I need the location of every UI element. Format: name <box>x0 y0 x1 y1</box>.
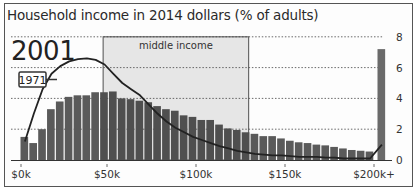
line-label-1971: 1971 <box>19 74 47 87</box>
y-tick-label: 6 <box>396 62 403 74</box>
bar <box>136 101 144 160</box>
y-tick-label: 0 <box>396 154 403 166</box>
bar <box>162 109 170 160</box>
y-tick-label: 2 <box>396 123 403 135</box>
bar <box>109 91 117 160</box>
bar <box>268 136 276 160</box>
middle-income-label: middle income <box>139 40 213 51</box>
bar <box>38 129 46 160</box>
bar-chart: middle income024681971$0k$50k$100k$150k$… <box>0 0 419 193</box>
bar <box>277 138 285 160</box>
x-tick-label: $0k <box>11 168 31 180</box>
x-tick-label: $150k <box>269 168 303 180</box>
bar <box>82 95 90 160</box>
bar <box>91 92 99 160</box>
bar <box>251 134 259 160</box>
bar <box>47 109 55 160</box>
bar <box>242 132 250 160</box>
bar <box>29 143 37 160</box>
bar <box>259 136 267 160</box>
x-tick-label: $200k+ <box>353 168 395 180</box>
bar <box>171 111 179 160</box>
bar <box>65 97 73 160</box>
bar <box>74 95 82 160</box>
bar <box>215 125 223 160</box>
y-tick-label: 8 <box>396 31 403 43</box>
bar <box>233 130 241 160</box>
bar <box>144 102 152 160</box>
bar <box>127 99 135 160</box>
bar <box>56 101 64 160</box>
y-tick-label: 4 <box>396 92 403 104</box>
x-tick-label: $50k <box>94 168 121 180</box>
bar <box>100 92 108 160</box>
bar <box>206 120 214 160</box>
bar <box>378 49 386 160</box>
x-tick-label: $100k <box>180 168 214 180</box>
year-label: 2001 <box>11 36 75 66</box>
bar <box>118 98 126 160</box>
bar <box>180 115 188 160</box>
bar <box>224 128 232 160</box>
